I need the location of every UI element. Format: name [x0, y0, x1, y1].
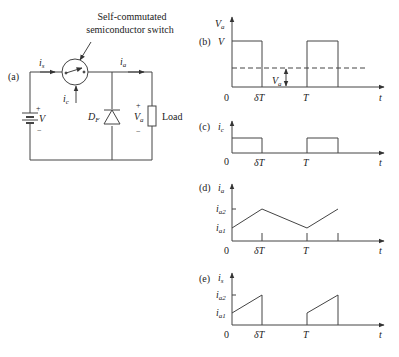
chopper-diagram: Self-commutated semiconductor switch (a)…: [0, 0, 399, 357]
ic-pulse-2: [307, 138, 338, 153]
battery-icon: [22, 113, 38, 123]
axis-t: t: [379, 92, 382, 103]
tick-T: T: [303, 329, 310, 340]
control-current-label: ic: [63, 93, 70, 106]
tick-0: 0: [224, 245, 229, 256]
graph-b-ylabel: Va: [215, 18, 225, 31]
graph-b: [232, 17, 384, 87]
load-resistor-icon: [148, 106, 156, 126]
avg-label: Va: [272, 75, 282, 88]
tick-dT: δT: [254, 157, 266, 168]
graph-d-ylabel: ia: [218, 182, 225, 195]
source-voltage-label: V: [39, 113, 47, 124]
tick-T: T: [303, 157, 310, 168]
is-ramp-2: [307, 295, 338, 325]
switch-icon: [62, 59, 88, 85]
source-plus: +: [36, 104, 41, 113]
graph-e: [232, 273, 384, 325]
graph-e-ylabel: is: [218, 272, 224, 285]
label-ia1: ia1: [216, 307, 226, 320]
is-ramp-1: [232, 295, 262, 325]
tick-0: 0: [224, 156, 229, 167]
source-minus: −: [37, 126, 42, 135]
diode-icon: [104, 110, 120, 124]
switch-caption-line2: semiconductor switch: [86, 24, 173, 35]
axis-t: t: [379, 157, 382, 168]
panel-label-e: (e): [199, 273, 210, 285]
load-minus: −: [136, 127, 141, 136]
tick-dT: δT: [254, 92, 266, 103]
label-ia2: ia2: [216, 203, 226, 216]
load-plus: +: [136, 101, 141, 110]
graph-e-labels: (e) is ia2 ia1 0 δT T t: [199, 272, 382, 340]
load-current-label: ia: [120, 56, 127, 69]
tick-dT: δT: [254, 329, 266, 340]
ic-pulse-1: [232, 138, 262, 153]
load-label: Load: [162, 111, 183, 122]
tick-0: 0: [224, 92, 229, 103]
tick-0: 0: [224, 329, 229, 340]
graph-b-labels: (b) Va V Va 0 δT T t: [199, 18, 382, 103]
tick-T: T: [303, 245, 310, 256]
graph-c-labels: (c) ic 0 δT T t: [199, 121, 382, 168]
graph-d-labels: (d) ia ia2 ia1 0 δT T t: [199, 182, 382, 256]
load-voltage-label: Va: [134, 111, 144, 124]
switch-caption-line1: Self-commutated: [98, 11, 167, 22]
graph-c: [232, 121, 384, 153]
label-ia2: ia2: [216, 289, 226, 302]
va-pulse-2: [307, 41, 338, 87]
graph-d: [232, 184, 384, 241]
va-pulse-1: [232, 41, 262, 87]
tick-dT: δT: [254, 245, 266, 256]
axis-t: t: [379, 245, 382, 256]
panel-label-a: (a): [8, 71, 19, 83]
ia-waveform: [232, 209, 338, 228]
source-current-label: is: [39, 57, 45, 70]
panel-label-d: (d): [199, 182, 211, 194]
label-ia1: ia1: [216, 222, 226, 235]
graph-c-ylabel: ic: [218, 121, 225, 134]
axis-t: t: [379, 329, 382, 340]
diode-label: DF: [87, 111, 100, 124]
panel-label-b: (b): [199, 36, 211, 48]
tick-T: T: [303, 92, 310, 103]
panel-label-c: (c): [199, 121, 210, 133]
level-v: V: [218, 36, 226, 47]
caption-pointer-arrow: [80, 42, 91, 60]
